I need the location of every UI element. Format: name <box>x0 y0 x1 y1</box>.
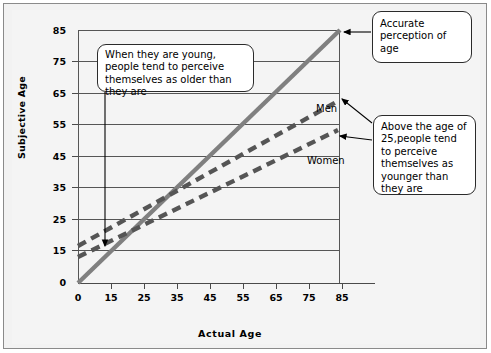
chart-figure: Subjective Age 85 75 65 55 45 35 25 15 0… <box>0 0 491 353</box>
callout-accurate-perception: Accurate perception of age <box>372 11 472 63</box>
series-line-men <box>78 101 338 246</box>
annotation-arrow-women <box>340 136 372 140</box>
series-line-women <box>78 130 338 257</box>
series-label-women: Women <box>307 155 345 166</box>
callout-above-25-perception: Above the age of 25,people tend to perce… <box>373 115 476 195</box>
callout-young-perception: When they are young, people tend to perc… <box>97 44 254 92</box>
series-label-men: Men <box>316 103 337 114</box>
annotation-arrow-men <box>342 99 372 123</box>
